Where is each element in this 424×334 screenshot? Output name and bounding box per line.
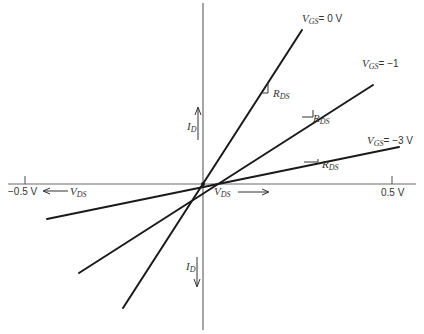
id-positive-label: ID	[186, 120, 197, 134]
vds-negative-arrow-icon	[43, 188, 68, 194]
fet-characteristics-diagram: VGS= 0 V VGS= −1 VGS= −3 V RDS RDS RDS V…	[0, 0, 424, 334]
label-vgs-minus3: VGS= −3 V	[367, 134, 413, 148]
label-vgs-0: VGS= 0 V	[302, 12, 342, 26]
id-up-arrow-icon	[195, 107, 201, 140]
x-tick-label-negative: −0.5 V	[8, 186, 38, 197]
rds-marker-vgs-minus3	[304, 159, 318, 162]
line-vgs-minus3	[47, 147, 399, 219]
label-vgs-minus1: VGS= −1	[362, 57, 399, 71]
vds-negative-label: VDS	[70, 185, 87, 199]
vds-positive-label: VDS	[214, 185, 231, 199]
origin-point	[201, 182, 205, 186]
line-vgs-minus1	[79, 85, 373, 273]
vds-positive-arrow-icon	[238, 189, 269, 195]
id-negative-label: ID	[185, 260, 196, 274]
rds-label-vgs-0: RDS	[272, 87, 290, 101]
line-vgs-0	[123, 30, 302, 308]
rds-marker-vgs-minus1	[302, 110, 313, 117]
x-tick-label-positive: 0.5 V	[381, 187, 405, 198]
